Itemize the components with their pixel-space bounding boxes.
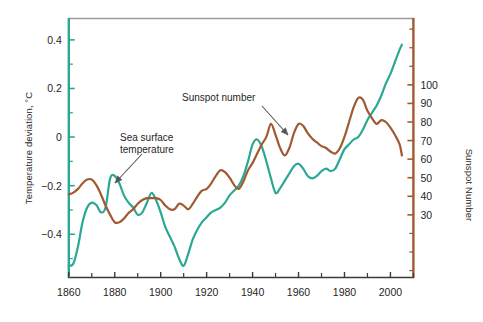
right-axis-tick-label: 80	[420, 116, 432, 128]
chart-figure: 0.40.20−0.2−0.4 10090807060504030 186018…	[0, 0, 483, 322]
x-axis-tick-label: 1940	[241, 286, 265, 298]
left-axis-tick-labels: 0.40.20−0.2−0.4	[41, 34, 62, 240]
x-axis-tick-label: 1860	[57, 286, 81, 298]
annotation-sst-arrow-icon	[115, 154, 142, 183]
right-axis-tick-label: 50	[420, 172, 432, 184]
annotation-sst-line-2: temperature	[120, 144, 174, 155]
x-axis-tick-label: 1980	[333, 286, 357, 298]
right-axis-tick-label: 70	[420, 135, 432, 147]
left-axis-tick-label: −0.2	[41, 180, 62, 192]
right-axis-tick-label: 60	[420, 153, 432, 165]
annotation-sunspot-label: Sunspot number	[182, 92, 256, 103]
annotation-sea-surface-temperature: Sea surface temperature	[115, 132, 174, 183]
right-axis-tick-label: 100	[420, 79, 438, 91]
x-axis-tick-labels: 18601880190019201940196019802000	[57, 286, 402, 298]
right-axis-tick-labels: 10090807060504030	[420, 79, 438, 221]
x-axis-tick-label: 1880	[103, 286, 127, 298]
left-axis-tick-label: 0.4	[47, 34, 62, 46]
annotation-sunspot-number: Sunspot number	[182, 92, 288, 135]
left-axis-tick-label: −0.4	[41, 228, 62, 240]
x-axis-tick-label: 1900	[149, 286, 173, 298]
annotation-sst-line-1: Sea surface	[120, 132, 174, 143]
series-line-sunspot-number	[69, 97, 402, 223]
series-line-sea-surface-temperature	[69, 45, 402, 266]
x-axis-tick-label: 1920	[195, 286, 219, 298]
right-axis-tick-label: 90	[420, 97, 432, 109]
left-axis-tick-label: 0	[56, 131, 62, 143]
left-axis-tick-label: 0.2	[47, 82, 62, 94]
right-axis-tick-label: 40	[420, 190, 432, 202]
right-axis-title: Sunspot Number	[464, 149, 475, 222]
left-axis-title: Temperature deviation, °C	[23, 92, 34, 204]
x-axis-tick-label: 1960	[287, 286, 311, 298]
x-axis-tick-label: 2000	[379, 286, 403, 298]
right-axis-tick-label: 30	[420, 209, 432, 221]
